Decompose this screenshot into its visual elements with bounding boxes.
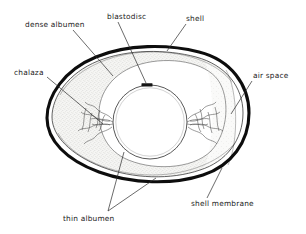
yolk xyxy=(113,85,187,159)
label-shell-membrane: shell membrane xyxy=(191,199,254,208)
label-chalaza: chalaza xyxy=(14,68,44,77)
label-shell: shell xyxy=(186,14,204,23)
label-dense-albumen: dense albumen xyxy=(25,20,85,29)
egg-diagram-svg: dense albumen blastodisc shell chalaza a… xyxy=(0,0,306,234)
label-air-space: air space xyxy=(253,71,289,80)
blastodisc-mark xyxy=(142,83,153,86)
egg-anatomy-diagram-page: dense albumen blastodisc shell chalaza a… xyxy=(0,0,306,234)
label-thin-albumen: thin albumen xyxy=(63,214,115,223)
label-blastodisc: blastodisc xyxy=(107,12,146,21)
